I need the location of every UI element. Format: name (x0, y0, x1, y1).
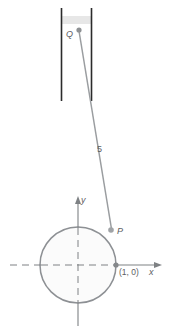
label-y-axis: y (80, 195, 86, 205)
point-marker-q (76, 27, 81, 32)
label-point-q: Q (66, 29, 73, 39)
label-x-axis: x (148, 267, 154, 277)
geometry-figure: Q 5 P y x (1, 0) (0, 0, 172, 332)
point-marker-unit (113, 262, 118, 267)
slot-shaded-band (61, 16, 92, 24)
label-point-on-axis: (1, 0) (119, 267, 139, 277)
point-marker-p (108, 227, 114, 233)
label-segment-length: 5 (97, 144, 102, 154)
figure-canvas: Q 5 P y x (1, 0) (0, 0, 172, 332)
x-axis-arrowhead-icon (154, 262, 162, 268)
label-point-p: P (117, 226, 123, 236)
